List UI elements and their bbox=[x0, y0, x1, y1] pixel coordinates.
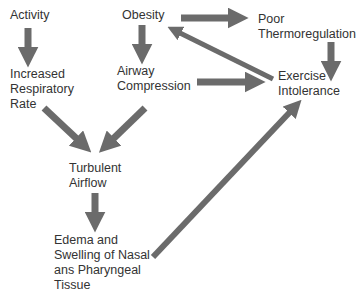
node-exercise-intolerance: Exercise Intolerance bbox=[278, 69, 340, 99]
node-turbulent-airflow: Turbulent Airflow bbox=[69, 161, 121, 191]
node-increased-respiratory-rate: Increased Respiratory Rate bbox=[10, 67, 74, 112]
arrow-airway-compression-to-turbulent-airflow bbox=[113, 108, 145, 139]
node-activity: Activity bbox=[10, 8, 50, 23]
node-poor-thermoregulation: Poor Thermoregulation bbox=[258, 12, 356, 42]
node-edema-swelling: Edema and Swelling of Nasal ans Pharynge… bbox=[54, 233, 150, 293]
node-obesity: Obesity bbox=[122, 8, 164, 23]
node-airway-compression: Airway Compression bbox=[117, 64, 191, 94]
arrow-respiratory-rate-to-turbulent-airflow bbox=[44, 108, 77, 139]
arrow-edema-to-exercise-intolerance bbox=[153, 112, 290, 257]
